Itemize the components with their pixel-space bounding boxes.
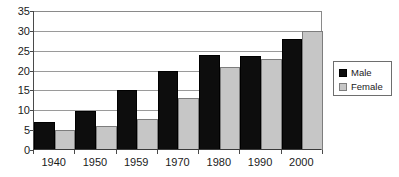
x-axis-tick-mark (116, 150, 117, 154)
bar-group (282, 11, 323, 150)
x-axis-tick-label: 1990 (239, 156, 280, 168)
x-axis-tick-label: 1970 (157, 156, 198, 168)
y-axis-tick-label: 30 (4, 26, 30, 36)
x-axis-tick-label: 1950 (74, 156, 115, 168)
bar-group (240, 11, 281, 150)
plot-inner (34, 11, 321, 150)
bar-chart: 05101520253035 1940195019591970198019902… (0, 0, 399, 177)
bar-female (96, 126, 117, 150)
legend-label: Male (351, 68, 372, 78)
bar-female (178, 98, 199, 150)
male-swatch (339, 69, 347, 77)
bar-male (282, 39, 303, 150)
y-axis-tick-label: 15 (4, 85, 30, 95)
y-axis-tick-label: 35 (4, 6, 30, 16)
y-axis-tick-label: 5 (4, 125, 30, 135)
legend-label: Female (351, 82, 383, 92)
bar-male (34, 122, 55, 150)
y-axis-tick-label: 25 (4, 46, 30, 56)
bar-female (220, 67, 241, 150)
y-axis-tick-label: 20 (4, 66, 30, 76)
bar-group (34, 11, 75, 150)
x-axis-tick-mark (157, 150, 158, 154)
x-axis-tick-mark (198, 150, 199, 154)
bar-female (261, 59, 282, 150)
legend-item: Male (339, 66, 391, 79)
x-axis-tick-mark (33, 150, 34, 154)
female-swatch (339, 83, 347, 91)
bar-female (55, 130, 76, 150)
bar-male (75, 111, 96, 150)
bar-female (137, 119, 158, 150)
x-axis-tick-mark (239, 150, 240, 154)
chart-legend: MaleFemale (333, 61, 392, 96)
x-axis-tick-label: 1940 (33, 156, 74, 168)
plot-area (33, 11, 322, 150)
x-axis-tick-mark (74, 150, 75, 154)
bar-group (75, 11, 116, 150)
x-axis: 1940195019591970198019902000 (33, 150, 322, 177)
bar-male (117, 90, 138, 150)
bar-group (158, 11, 199, 150)
y-axis: 05101520253035 (0, 0, 30, 177)
y-axis-tick-label: 10 (4, 105, 30, 115)
bar-female (302, 31, 323, 150)
bar-male (158, 71, 179, 150)
x-axis-tick-label: 1959 (116, 156, 157, 168)
bar-male (199, 55, 220, 150)
x-axis-tick-mark (281, 150, 282, 154)
bar-group (199, 11, 240, 150)
bar-group (117, 11, 158, 150)
x-axis-tick-label: 1980 (198, 156, 239, 168)
x-axis-tick-label: 2000 (281, 156, 322, 168)
y-axis-tick-label: 0 (4, 145, 30, 155)
legend-item: Female (339, 80, 391, 93)
bar-male (240, 56, 261, 150)
x-axis-tick-mark (322, 150, 323, 154)
